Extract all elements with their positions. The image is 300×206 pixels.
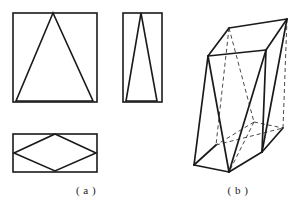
top-view-rhombus xyxy=(14,134,96,171)
side-view-triangle xyxy=(126,13,157,101)
pictorial-view-group xyxy=(194,19,287,172)
top-view-rectangle xyxy=(13,134,97,172)
caption-b: ( b ) xyxy=(208,184,268,196)
caption-a: ( a ) xyxy=(56,184,116,196)
side-view-group xyxy=(123,13,162,102)
geometry-figure: ( a ) ( b ) xyxy=(0,0,300,206)
top-view-group xyxy=(13,134,97,172)
front-view-rectangle xyxy=(13,13,97,102)
front-view-group xyxy=(13,13,97,102)
front-view-triangle xyxy=(16,13,93,101)
figure-drawing-canvas xyxy=(0,0,300,206)
